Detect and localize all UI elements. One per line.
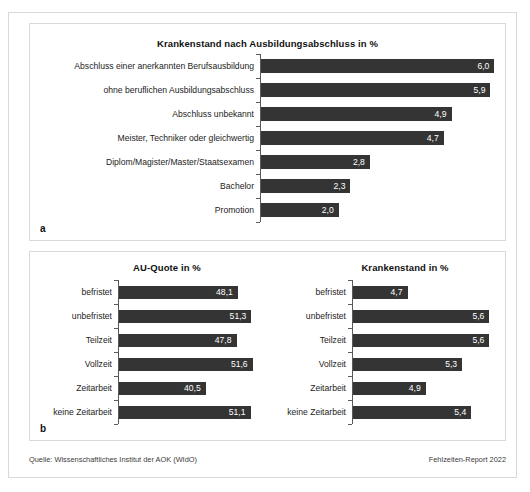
axis-tick [256, 102, 260, 103]
axis-tick [114, 352, 118, 353]
category-label: Abschluss unbekannt [32, 110, 254, 119]
axis-tick [348, 424, 352, 425]
category-label: Promotion [32, 206, 254, 215]
axis-tick [114, 376, 118, 377]
panel-b-left-chart: befristet48,1unbefristet51,3Teilzeit47,8… [32, 280, 266, 424]
axis-tick [256, 222, 260, 223]
footer-source-text: Quelle: Wissenschaftliches Institut der … [29, 455, 197, 464]
footer-report-text: Fehlzeiten-Report 2022 [429, 455, 506, 464]
category-label: keine Zeitarbeit [32, 408, 112, 417]
panel-a: Krankenstand nach Ausbildungsabschluss i… [29, 23, 506, 241]
category-label: Zeitarbeit [268, 384, 346, 393]
category-label: befristet [32, 288, 112, 297]
axis-tick [348, 352, 352, 353]
bar-value-label: 51,1 [119, 408, 246, 417]
axis-tick [114, 304, 118, 305]
axis-tick [348, 328, 352, 329]
axis-tick [114, 424, 118, 425]
bar-value-label: 5,6 [353, 312, 484, 321]
category-label: Zeitarbeit [32, 384, 112, 393]
panel-a-chart: Abschluss einer anerkannten Berufsausbil… [32, 54, 505, 222]
y-axis-line [118, 280, 119, 424]
axis-tick [348, 400, 352, 401]
category-label: Vollzeit [268, 360, 346, 369]
axis-tick [348, 280, 352, 281]
axis-tick [114, 400, 118, 401]
category-label: Vollzeit [32, 360, 112, 369]
axis-tick [348, 304, 352, 305]
category-label: unbefristet [268, 312, 346, 321]
bar-value-label: 5,9 [261, 86, 485, 95]
bar-value-label: 47,8 [119, 336, 232, 345]
axis-tick [114, 328, 118, 329]
bar-value-label: 4,9 [353, 384, 421, 393]
y-axis-line [352, 280, 353, 424]
panel-b-right-chart: befristet4,7unbefristet5,6Teilzeit5,6Vol… [268, 280, 502, 424]
category-label: Bachelor [32, 182, 254, 191]
category-label: Teilzeit [268, 336, 346, 345]
bar-value-label: 51,3 [119, 312, 246, 321]
bar-value-label: 5,4 [353, 408, 466, 417]
bar-value-label: 2,0 [261, 206, 334, 215]
bar-value-label: 51,6 [119, 360, 248, 369]
axis-tick [256, 78, 260, 79]
bar-value-label: 2,3 [261, 182, 345, 191]
panel-a-title: Krankenstand nach Ausbildungsabschluss i… [30, 38, 505, 49]
category-label: unbefristet [32, 312, 112, 321]
axis-tick [256, 54, 260, 55]
category-label: befristet [268, 288, 346, 297]
category-label: ohne beruflichen Ausbildungsabschluss [32, 86, 254, 95]
bar-value-label: 2,8 [261, 158, 365, 167]
bar-value-label: 4,7 [261, 134, 439, 143]
category-label: keine Zeitarbeit [268, 408, 346, 417]
panel-a-letter: a [40, 223, 46, 234]
panel-b-right-title: Krankenstand in % [320, 262, 490, 273]
panel-b-letter: b [40, 423, 46, 434]
axis-tick [256, 126, 260, 127]
bar-value-label: 4,9 [261, 110, 447, 119]
bar-value-label: 5,3 [353, 360, 457, 369]
bar-value-label: 4,7 [353, 288, 403, 297]
bar-value-label: 6,0 [261, 62, 489, 71]
figure-footer: Quelle: Wissenschaftliches Institut der … [29, 455, 506, 469]
category-label: Diplom/Magister/Master/Staatsexamen [32, 158, 254, 167]
axis-tick [256, 174, 260, 175]
axis-tick [348, 376, 352, 377]
axis-tick [256, 198, 260, 199]
panel-b: AU-Quote in % befristet48,1unbefristet51… [29, 251, 506, 441]
category-label: Teilzeit [32, 336, 112, 345]
axis-tick [256, 150, 260, 151]
bar-value-label: 40,5 [119, 384, 201, 393]
panel-b-left-title: AU-Quote in % [82, 262, 252, 273]
axis-tick [114, 280, 118, 281]
bar-value-label: 48,1 [119, 288, 233, 297]
category-label: Meister, Techniker oder gleichwertig [32, 134, 254, 143]
figure-frame: Krankenstand nach Ausbildungsabschluss i… [8, 12, 517, 478]
category-label: Abschluss einer anerkannten Berufsausbil… [32, 62, 254, 71]
bar-value-label: 5,6 [353, 336, 484, 345]
